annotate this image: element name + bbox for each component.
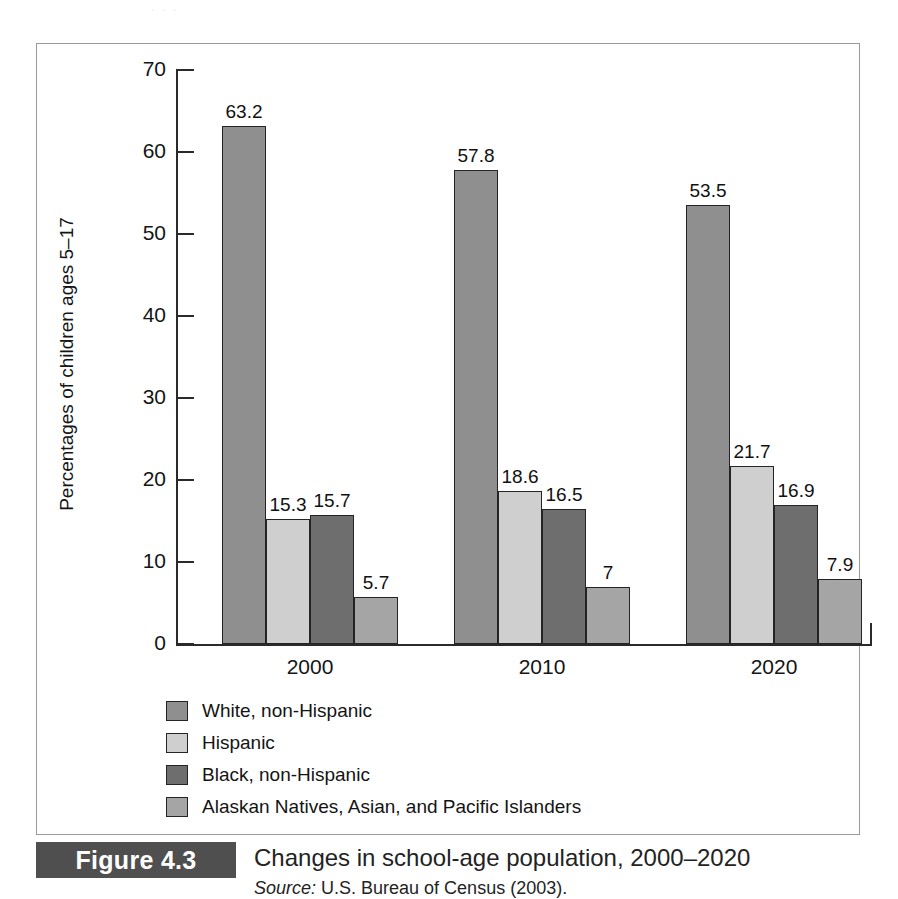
legend-item: Hispanic (166, 727, 581, 759)
bar-value-label: 57.8 (446, 146, 506, 165)
bar (222, 126, 266, 644)
legend-item: Alaskan Natives, Asian, and Pacific Isla… (166, 791, 581, 823)
chart-legend: White, non-HispanicHispanicBlack, non-Hi… (166, 695, 581, 823)
bar-value-label: 15.7 (302, 491, 362, 510)
legend-item-label: Hispanic (202, 732, 275, 754)
bar-value-label: 16.9 (766, 481, 826, 500)
bar-value-label: 21.7 (722, 442, 782, 461)
bar (454, 170, 498, 644)
bars-layer: 63.215.315.75.757.818.616.5753.521.716.9… (36, 43, 860, 663)
bar (686, 205, 730, 644)
legend-swatch-icon (166, 797, 188, 817)
x-axis-category-label: 2010 (424, 655, 660, 679)
bar (774, 505, 818, 644)
figure-caption: Figure 4.3 Changes in school-age populat… (36, 842, 896, 899)
legend-item-label: White, non-Hispanic (202, 700, 372, 722)
bar (818, 579, 862, 644)
x-axis-category-label: 2020 (656, 655, 892, 679)
bar-value-label: 16.5 (534, 485, 594, 504)
figure-source: Source: U.S. Bureau of Census (2003). (254, 878, 567, 899)
bar-value-label: 7.9 (810, 555, 870, 574)
bar-value-label: 7 (578, 563, 638, 582)
bar (586, 587, 630, 644)
bar (498, 491, 542, 644)
legend-item-label: Alaskan Natives, Asian, and Pacific Isla… (202, 796, 581, 818)
figure-title: Changes in school-age population, 2000–2… (254, 844, 750, 872)
chart-plot-area: Percentages of children ages 5–17 010203… (36, 43, 860, 663)
x-axis-end-tick (870, 623, 872, 646)
figure-number-tag: Figure 4.3 (36, 842, 236, 878)
bar-value-label: 63.2 (214, 102, 274, 121)
bar (266, 519, 310, 644)
bar-value-label: 5.7 (346, 573, 406, 592)
source-text: U.S. Bureau of Census (2003). (316, 878, 567, 898)
legend-swatch-icon (166, 733, 188, 753)
x-axis-category-label: 2000 (192, 655, 428, 679)
legend-item-label: Black, non-Hispanic (202, 764, 370, 786)
scan-bleed-artifact: · · · (150, 0, 670, 18)
source-prefix: Source: (254, 878, 316, 898)
legend-swatch-icon (166, 701, 188, 721)
bar-value-label: 18.6 (490, 467, 550, 486)
legend-item: Black, non-Hispanic (166, 759, 581, 791)
legend-item: White, non-Hispanic (166, 695, 581, 727)
bar (354, 597, 398, 644)
bar-value-label: 53.5 (678, 181, 738, 200)
legend-swatch-icon (166, 765, 188, 785)
